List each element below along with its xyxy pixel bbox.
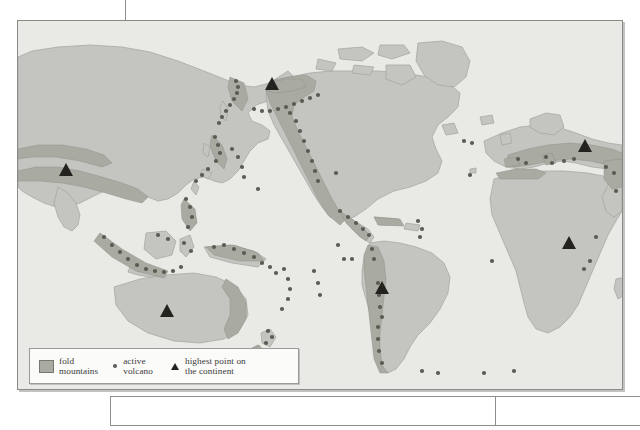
- fold-mountains-swatch-icon: [39, 360, 54, 373]
- legend-label-fold-mountains: fold mountains: [59, 356, 98, 377]
- map-legend: fold mountains active volcano highest po…: [29, 348, 299, 384]
- world-map-svg: [18, 21, 622, 389]
- page-guide-caption-left: [110, 396, 111, 426]
- legend-item-active-volcano: active volcano: [112, 356, 153, 377]
- page-guide-caption-divider: [495, 396, 496, 426]
- legend-label-highest-point: highest point on the continent: [185, 356, 246, 377]
- land-british-isles: [500, 133, 512, 145]
- highest-point-triangle-icon: [171, 363, 179, 370]
- legend-item-fold-mountains: fold mountains: [39, 356, 98, 377]
- world-map-plate: fold mountains active volcano highest po…: [17, 20, 623, 390]
- land-arctic-island-4: [352, 65, 374, 75]
- legend-label-active-volcano: active volcano: [123, 356, 153, 377]
- land-atlantic-island-1: [470, 168, 476, 173]
- land-iceland: [480, 115, 494, 125]
- page-guide-vertical-top: [125, 0, 126, 21]
- page-guide-caption-top: [110, 396, 640, 397]
- page-canvas: fold mountains active volcano highest po…: [0, 0, 640, 430]
- active-volcano-dot-icon: [113, 364, 117, 368]
- legend-item-highest-point: highest point on the continent: [170, 356, 246, 377]
- page-guide-caption-bottom: [110, 425, 640, 426]
